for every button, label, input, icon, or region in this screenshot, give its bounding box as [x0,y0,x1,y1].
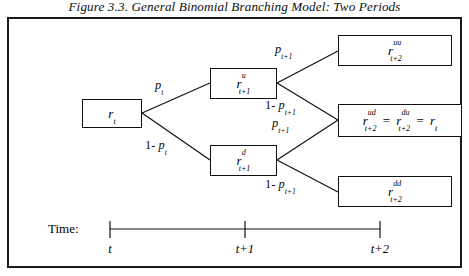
timeline-tick-label-1: t [96,242,124,257]
node-up: rut+1 [210,68,277,99]
probability-label-downdown-period2: 1- pt+1 [265,177,296,192]
timeline-tick-label-2: t+1 [228,242,262,257]
probability-label-downup-period2: pt+1 [272,116,289,131]
figure-container: Figure 3.3. General Binomial Branching M… [0,0,469,276]
node-up-up-math: ruut+2 [388,44,402,57]
node-up-down: rudt+2 = rdut+2 = rt [338,104,462,137]
probability-label-down-period1: 1- pt [145,138,167,153]
node-down-down: rddt+2 [338,176,452,207]
node-up-math: rut+1 [237,77,251,90]
probability-label-updown-period2: 1- pt+1 [265,98,296,113]
timeline-label: Time: [48,221,79,237]
node-down-math: rdt+1 [237,154,251,167]
node-down-down-math: rddt+2 [388,185,402,198]
node-up-up: ruut+2 [338,35,452,66]
node-down: rdt+1 [210,145,277,176]
probability-label-up-period2: pt+1 [275,42,292,57]
timeline-tick-label-3: t+2 [363,242,397,257]
probability-label-up-period1: pt [155,78,163,93]
node-root: rt [82,99,142,128]
figure-title: Figure 3.3. General Binomial Branching M… [0,0,469,15]
node-up-down-math: rudt+2 = rdut+2 = rt [363,114,438,127]
node-root-math: rt [108,107,115,120]
